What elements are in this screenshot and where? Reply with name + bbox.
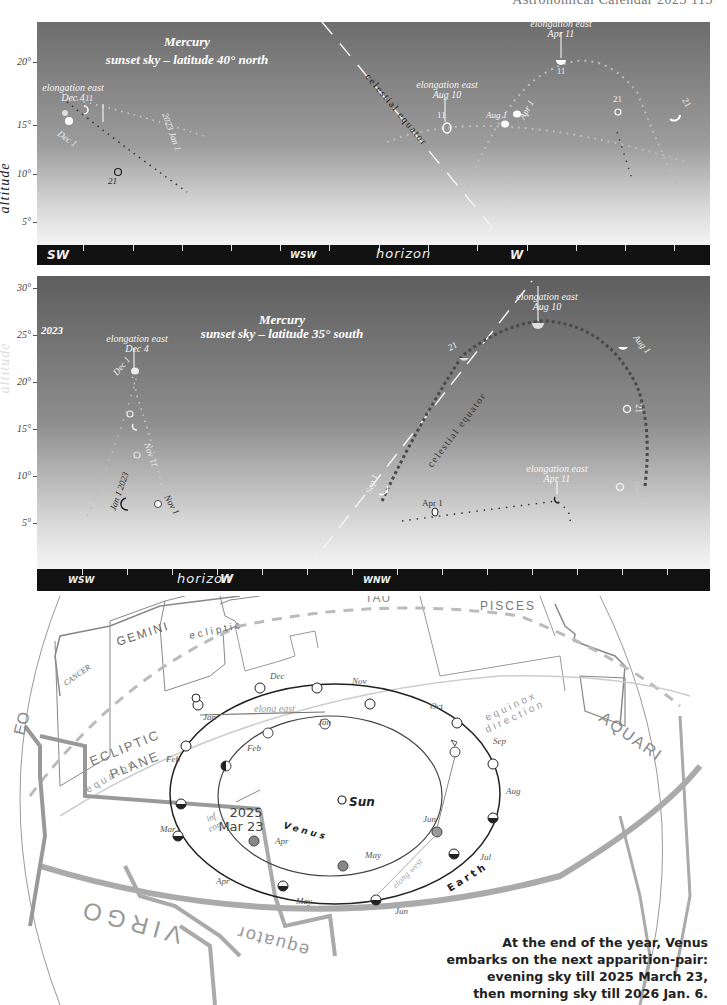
sun-label: Sun [349, 795, 375, 809]
y-tick: 20° [17, 56, 31, 67]
earth-month: Oct [430, 701, 443, 711]
earth-month: Jul [480, 852, 491, 862]
y-tick: 10° [17, 470, 31, 481]
annotation: Aug 10 [532, 301, 562, 312]
caption-line: then morning sky till 2026 Jan. 6. [447, 985, 708, 1002]
venus-month: Apr [274, 836, 289, 846]
direction-wsw: WSW [68, 575, 94, 585]
venus-label: Venus [282, 820, 329, 841]
earth-month: Mar [159, 824, 176, 834]
constellation-gemini: GEMINI [115, 619, 171, 649]
horizon-bar-south: WSW horizon W WNW [37, 569, 710, 591]
constellation-pisces: PISCES [480, 599, 536, 613]
earth-month: Feb [165, 754, 180, 764]
direction-w: W [510, 248, 523, 262]
annotation: Dec 4 [60, 92, 85, 103]
earth-month: Apr [215, 876, 230, 886]
constellation-aquarius: AQUARI [596, 709, 666, 765]
annotation: Aug 1 [485, 110, 507, 120]
direction-wsw: WSW [290, 250, 316, 260]
y-tick: 15° [17, 423, 31, 434]
caption-line: embarks on the next apparition-pair: [447, 951, 708, 968]
date-year: 2025 [229, 805, 262, 820]
ylabel-north: altitude [10, 140, 32, 240]
year-label: 2023 [40, 324, 64, 336]
caption-line: At the end of the year, Venus [447, 934, 708, 951]
date-day: Mar 23 [218, 819, 263, 834]
venus-month: May [364, 850, 381, 860]
earth-month: Jun [395, 906, 408, 916]
direction-sw: SW [47, 248, 69, 262]
sky-panel-north: Mercury sunset sky – latitude 40° north … [37, 22, 710, 245]
annotation: 11 [85, 93, 93, 103]
annotation: Dec 4 [124, 343, 149, 354]
elong-east-label: elong east [254, 703, 295, 714]
caption: At the end of the year, Venus embarks on… [447, 934, 708, 1002]
caption-line: evening sky till 2025 March 23, [447, 968, 708, 985]
chart-title-line1: Mercury [163, 34, 210, 49]
annotation: 11 [437, 110, 446, 120]
equator-bottom-label: equator [233, 922, 311, 961]
venus-month: Jan [318, 717, 331, 727]
annotation: 21 [613, 94, 622, 104]
annotation: Apr 1 [422, 498, 443, 508]
annotation: Aug 10 [432, 89, 462, 100]
venus-month: Feb [246, 743, 261, 753]
annotation: 11 [557, 66, 566, 76]
constellation-tau: TAU [365, 596, 391, 605]
direction-wnw: WNW [363, 575, 390, 585]
y-tick: 30° [17, 282, 31, 293]
chart-title-line2: sunset sky – latitude 35° south [200, 326, 363, 341]
horizon-label: horizon [376, 246, 431, 261]
constellation-cancer: CANCER [62, 663, 92, 688]
annotation: 21 [634, 404, 644, 413]
annotation: Apr 11 [543, 473, 571, 484]
earth-month: May [295, 896, 312, 906]
annotation: 21 [108, 176, 117, 186]
chart-title-line2: sunset sky – latitude 40° north [105, 52, 268, 67]
y-tick: 5° [22, 517, 31, 528]
earth-month: Sep [493, 736, 506, 746]
earth-label: Earth [445, 860, 489, 893]
page-header: Astronomical Calendar 2023 115 [512, 0, 713, 8]
earth-month: Jan [203, 712, 216, 722]
annotation: Apr 11 [547, 28, 575, 39]
earth-month: Nov [351, 676, 367, 686]
earth-month: Aug [505, 786, 521, 796]
y-tick: 15° [17, 119, 31, 130]
chart-title-line1: Mercury [258, 312, 305, 327]
ylabel-south: altitude [10, 320, 32, 420]
horizon-bar-north: SW WSW horizon W [37, 245, 710, 265]
venus-month: Jun [423, 814, 436, 824]
direction-w: W [220, 572, 233, 586]
earth-month: Dec [269, 671, 285, 681]
sky-panel-south: Mercury sunset sky – latitude 35° south … [37, 276, 710, 569]
ecliptic-label: ecliptic [188, 619, 244, 641]
